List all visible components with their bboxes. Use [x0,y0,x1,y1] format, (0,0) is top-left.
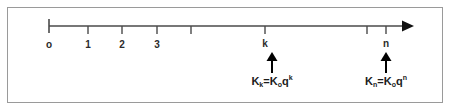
callout-n-factor-sup: n [403,74,407,81]
callout-k-lhs-sub: k [259,81,263,88]
callout-n-lhs-base: K [365,75,373,87]
axis-arrowhead-icon [402,21,414,32]
tick-label-k: k [262,39,268,49]
callout-n-factor-base: q [396,75,403,87]
callout-n-lhs-sub: n [373,81,377,88]
callout-k-up-arrow-icon [267,52,278,61]
callout-n-rhs-base: K [384,75,392,87]
callout-k-formula: Kk=Koqk [251,76,292,87]
tick-label-2: 2 [119,40,125,50]
tick-label-0: o [46,40,52,50]
tick-label-1: 1 [85,40,91,50]
callout-k-lhs-base: K [251,75,259,87]
figure-root: o 1 2 3 k n Kk=Koqk Kn=Koqn [0,0,454,111]
callout-k-factor-sup: k [289,74,293,81]
callout-n-formula: Kn=Koqn [365,76,407,87]
callout-k-rhs-sub: o [278,81,282,88]
tick-label-n: n [383,39,389,49]
number-line-drawing [0,0,454,111]
figure-stage: o 1 2 3 k n Kk=Koqk Kn=Koqn [0,0,454,111]
tick-label-3: 3 [154,40,160,50]
callout-n-up-arrow-icon [381,52,392,61]
callout-n-rhs-sub: o [392,81,396,88]
